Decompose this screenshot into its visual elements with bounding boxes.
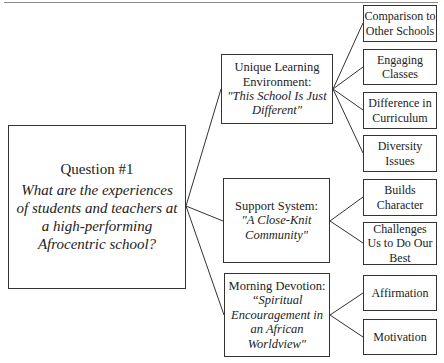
theme-quote: “Spiritual Encouragement in an African W… bbox=[228, 293, 326, 351]
root-question: What are the experiences of students and… bbox=[15, 181, 179, 253]
subtheme-label: Builds Character bbox=[364, 183, 436, 212]
root-title: Question #1 bbox=[61, 161, 134, 178]
subtheme-diversity-issues: Diversity Issues bbox=[363, 135, 437, 172]
subtheme-motivation: Motivation bbox=[363, 319, 437, 355]
theme-title: Support System: bbox=[235, 199, 318, 213]
subtheme-engaging-classes: Engaging Classes bbox=[363, 49, 437, 85]
subtheme-affirmation: Affirmation bbox=[363, 275, 437, 311]
root-question-box: Question #1 What are the experiences of … bbox=[8, 125, 186, 289]
subtheme-label: Difference in Curriculum bbox=[364, 96, 436, 125]
theme-quote: "This School Is Just Different" bbox=[225, 89, 329, 118]
theme-title: Unique Learning Environment: bbox=[225, 60, 329, 89]
subtheme-builds-character: Builds Character bbox=[363, 179, 437, 216]
subtheme-comparison-to-other-schools: Comparison to Other Schools bbox=[363, 5, 437, 42]
subtheme-challenges-us: Challenges Us to Do Our Best bbox=[363, 222, 437, 265]
subtheme-label: Comparison to Other Schools bbox=[364, 9, 436, 38]
theme-morning-devotion: Morning Devotion: “Spiritual Encourageme… bbox=[224, 273, 330, 357]
subtheme-difference-in-curriculum: Difference in Curriculum bbox=[363, 92, 437, 129]
subtheme-label: Affirmation bbox=[371, 286, 428, 300]
theme-title: Morning Devotion: bbox=[229, 279, 326, 293]
subtheme-label: Challenges Us to Do Our Best bbox=[366, 222, 434, 265]
theme-support-system: Support System: "A Close-Knit Community" bbox=[223, 178, 330, 263]
subtheme-label: Motivation bbox=[373, 330, 426, 344]
theme-quote: "A Close-Knit Community" bbox=[227, 213, 326, 242]
subtheme-label: Engaging Classes bbox=[377, 53, 423, 82]
subtheme-label: Diversity Issues bbox=[378, 139, 423, 168]
theme-unique-learning-environment: Unique Learning Environment: "This Schoo… bbox=[221, 54, 333, 124]
